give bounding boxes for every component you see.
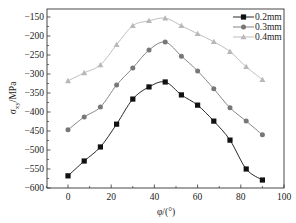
- y-tick-label: −400: [24, 107, 44, 117]
- series-0.3mm: [66, 40, 265, 138]
- circle-marker: [147, 48, 152, 53]
- y-tick-label: −200: [24, 31, 44, 41]
- series-layer: [65, 15, 265, 182]
- triangle-marker: [130, 23, 136, 28]
- square-marker: [195, 103, 200, 108]
- square-marker: [130, 96, 135, 101]
- square-marker: [163, 79, 168, 84]
- circle-marker: [228, 105, 233, 110]
- x-axis-title: φ/(°): [157, 207, 175, 218]
- legend-item-0.3mm: 0.3mm: [233, 22, 282, 32]
- y-axis-title-unit: /MPa: [8, 81, 18, 102]
- square-marker: [98, 144, 103, 149]
- y-tick-label: −600: [24, 183, 44, 193]
- circle-marker: [98, 105, 103, 110]
- circle-marker: [179, 54, 184, 59]
- legend-item-0.4mm: 0.4mm: [233, 32, 282, 42]
- y-tick-label: −450: [24, 126, 44, 136]
- triangle-marker: [178, 23, 184, 28]
- legend-label: 0.3mm: [255, 22, 282, 32]
- circle-marker: [260, 132, 265, 137]
- legend-label: 0.2mm: [255, 12, 282, 22]
- square-marker: [260, 177, 265, 182]
- circle-marker: [163, 40, 168, 45]
- circle-marker: [82, 114, 87, 119]
- series-0.4mm: [65, 15, 265, 83]
- x-tick-label: 40: [150, 192, 160, 202]
- square-marker: [114, 122, 119, 127]
- triangle-marker: [65, 78, 71, 83]
- y-tick-label: −350: [24, 88, 44, 98]
- y-tick-label: −250: [24, 50, 44, 60]
- y-tick-label: −500: [24, 145, 44, 155]
- triangle-marker: [211, 39, 217, 44]
- square-marker: [179, 92, 184, 97]
- square-marker: [82, 158, 87, 163]
- circle-marker: [114, 83, 119, 88]
- x-tick-label: 0: [66, 192, 71, 202]
- circle-marker: [211, 86, 216, 91]
- x-axis: 020406080100: [46, 185, 291, 203]
- y-tick-label: −550: [24, 164, 44, 174]
- triangle-marker: [81, 70, 87, 75]
- legend-item-0.2mm: 0.2mm: [233, 12, 282, 22]
- square-marker: [146, 84, 151, 89]
- series-0.2mm: [65, 79, 265, 182]
- stress-vs-angle-chart: −150−200−250−300−350−400−450−500−550−600…: [0, 0, 296, 223]
- circle-marker: [244, 119, 249, 124]
- square-marker: [227, 138, 232, 143]
- x-tick-label: 60: [193, 192, 203, 202]
- y-tick-label: −300: [24, 69, 44, 79]
- square-marker: [211, 119, 216, 124]
- y-axis-title: σxy/MPa: [8, 81, 21, 114]
- circle-marker: [195, 68, 200, 73]
- square-legend-icon: [241, 14, 246, 19]
- legend-label: 0.4mm: [255, 32, 282, 42]
- circle-marker: [130, 65, 135, 70]
- x-tick-label: 80: [236, 192, 246, 202]
- y-tick-label: −150: [24, 12, 44, 22]
- circle-marker: [66, 127, 71, 132]
- square-marker: [244, 166, 249, 171]
- circle-legend-icon: [241, 25, 246, 30]
- legend: 0.2mm0.3mm0.4mm: [233, 12, 282, 42]
- x-tick-label: 20: [106, 192, 116, 202]
- triangle-marker: [195, 31, 201, 36]
- triangle-marker: [227, 49, 233, 54]
- square-marker: [65, 173, 70, 178]
- x-tick-label: 100: [277, 192, 292, 202]
